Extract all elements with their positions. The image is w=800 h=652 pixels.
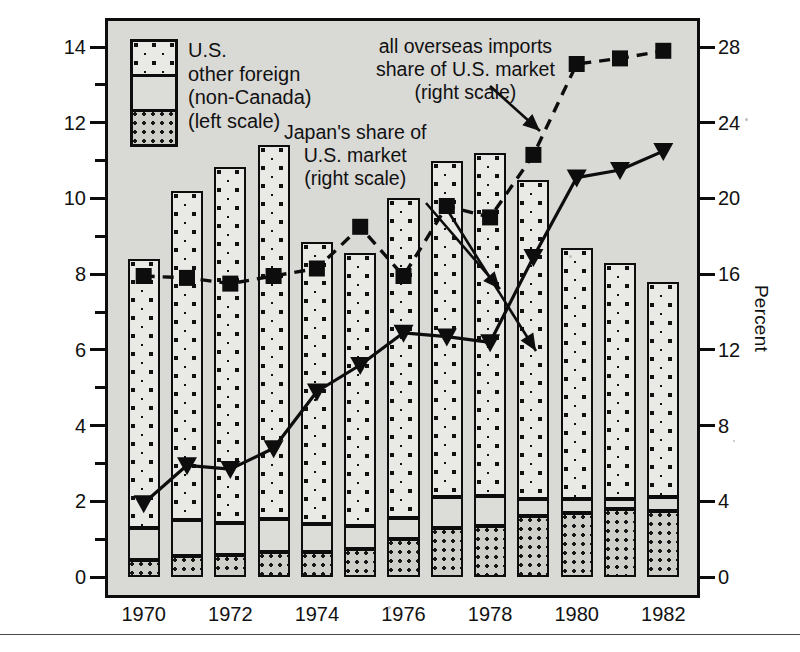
legend-label-non-canada: (non-Canada) [188, 86, 311, 110]
tick-mark [700, 576, 715, 579]
x-tick-label-1970: 1970 [104, 604, 184, 624]
tick-mark [95, 159, 105, 162]
plot-area: U.S. other foreign (non-Canada) (left sc… [105, 18, 700, 598]
data-point-overseas_share-1974 [309, 261, 325, 277]
data-point-japan_share-1972 [220, 461, 240, 479]
y-tick-label-right-0: 0 [718, 567, 764, 587]
x-tick-label-1976: 1976 [364, 604, 444, 624]
legend-swatch-stack [130, 39, 178, 147]
tick-mark [90, 576, 105, 579]
tick-mark [95, 83, 105, 86]
data-point-overseas_share-1977 [439, 198, 455, 214]
tick-mark [95, 235, 105, 238]
tick-mark [90, 46, 105, 49]
tick-mark [700, 500, 715, 503]
y-tick-label-right-8: 8 [718, 416, 764, 436]
data-point-japan_share-1973 [264, 440, 284, 458]
data-point-overseas_share-1973 [266, 268, 282, 284]
annotation-japan-share: Japan's share of U.S. market (right scal… [284, 121, 426, 190]
y-tick-label-right-16: 16 [718, 264, 764, 284]
data-point-overseas_share-1970 [136, 268, 152, 284]
tick-mark [90, 500, 105, 503]
tick-mark [700, 348, 715, 351]
legend-label-us: U.S. [188, 39, 311, 63]
y-axis-title-right: Percent [750, 285, 772, 485]
y-tick-label-left-4: 4 [40, 416, 86, 436]
data-point-overseas_share-1976 [396, 268, 412, 284]
tick-mark [95, 311, 105, 314]
plot-inner: U.S. other foreign (non-Canada) (left sc… [108, 21, 697, 595]
tick-mark [700, 424, 715, 427]
y-tick-label-right-24: 24 [718, 113, 764, 133]
tick-mark [90, 424, 105, 427]
legend-swatch-japan [133, 112, 175, 144]
y-tick-label-left-2: 2 [40, 491, 86, 511]
data-point-japan_share-1970 [134, 495, 154, 513]
annotation-overseas-imports: all overseas imports share of U.S. marke… [376, 35, 555, 104]
tick-mark [95, 538, 105, 541]
x-tick-label-1972: 1972 [190, 604, 270, 624]
line-series-japan_share [134, 143, 674, 513]
scan-speck [246, 612, 248, 614]
data-point-overseas_share-1972 [222, 276, 238, 292]
tick-mark [90, 273, 105, 276]
legend-swatch-other-foreign [133, 77, 175, 112]
scan-speck [388, 606, 391, 609]
data-point-overseas_share-1980 [569, 56, 585, 72]
tick-mark [95, 386, 105, 389]
data-point-overseas_share-1982 [655, 43, 671, 59]
x-tick-label-1980: 1980 [537, 604, 617, 624]
tick-mark [95, 462, 105, 465]
y-tick-label-left-10: 10 [40, 188, 86, 208]
x-tick-label-1978: 1978 [450, 604, 530, 624]
chart-page: Million units Percent 141210864202824201… [0, 0, 800, 652]
data-point-overseas_share-1978 [482, 209, 498, 225]
data-point-japan_share-1980 [567, 170, 587, 188]
tick-mark [700, 273, 715, 276]
y-tick-label-right-28: 28 [718, 37, 764, 57]
y-tick-label-left-6: 6 [40, 340, 86, 360]
legend-labels: U.S. other foreign (non-Canada) (left sc… [188, 39, 311, 133]
data-point-japan_share-1979 [523, 249, 543, 267]
y-tick-label-right-20: 20 [718, 188, 764, 208]
tick-mark [700, 197, 715, 200]
page-divider-rule [0, 634, 800, 635]
data-point-japan_share-1982 [653, 143, 673, 161]
data-point-overseas_share-1981 [612, 50, 628, 66]
tick-mark [700, 46, 715, 49]
scan-speck [745, 118, 748, 121]
data-point-japan_share-1978 [480, 334, 500, 352]
x-tick-label-1982: 1982 [623, 604, 703, 624]
data-point-overseas_share-1971 [179, 270, 195, 286]
tick-mark [90, 121, 105, 124]
x-tick-label-1974: 1974 [277, 604, 357, 624]
scan-speck [733, 440, 735, 442]
data-point-overseas_share-1979 [525, 147, 541, 163]
data-point-overseas_share-1975 [352, 219, 368, 235]
legend-swatch-us [133, 42, 175, 77]
tick-mark [90, 348, 105, 351]
y-tick-label-right-12: 12 [718, 340, 764, 360]
y-tick-label-left-8: 8 [40, 264, 86, 284]
tick-mark [700, 121, 715, 124]
y-tick-label-left-14: 14 [40, 37, 86, 57]
scan-speck [569, 255, 572, 258]
y-tick-label-left-0: 0 [40, 567, 86, 587]
y-tick-label-right-4: 4 [718, 491, 764, 511]
tick-mark [90, 197, 105, 200]
legend-label-other-foreign: other foreign [188, 63, 311, 87]
data-point-japan_share-1975 [350, 357, 370, 375]
y-tick-label-left-12: 12 [40, 113, 86, 133]
